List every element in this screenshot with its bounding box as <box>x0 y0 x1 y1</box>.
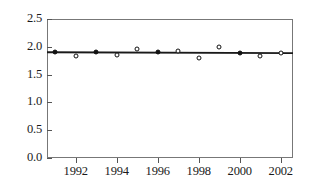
data-point <box>73 53 78 58</box>
data-point <box>135 47 140 52</box>
data-point <box>155 49 160 54</box>
trend-line <box>0 0 325 194</box>
data-point <box>114 53 119 58</box>
data-point <box>217 44 222 49</box>
data-point <box>53 50 58 55</box>
data-point <box>196 55 201 60</box>
data-point <box>278 51 283 56</box>
data-point <box>237 50 242 55</box>
data-point <box>176 48 181 53</box>
data-point <box>94 50 99 55</box>
scatter-chart: 0.00.51.01.52.02.5 199219941996199820002… <box>0 0 325 194</box>
data-layer <box>0 0 325 194</box>
data-point <box>258 54 263 59</box>
